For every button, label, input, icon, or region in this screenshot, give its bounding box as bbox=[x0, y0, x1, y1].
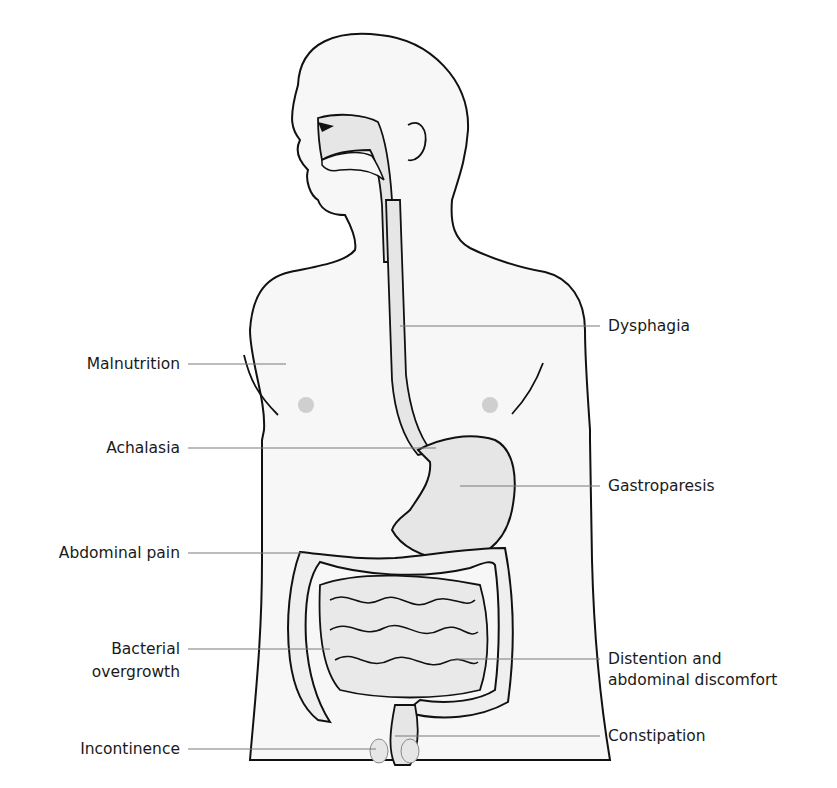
digestive-system-diagram: Malnutrition Achalasia Abdominal pain Ba… bbox=[0, 0, 837, 788]
nipple-left bbox=[298, 397, 314, 413]
label-text: Bacterial bbox=[92, 640, 180, 659]
anal-sphincter-right bbox=[401, 739, 419, 763]
label-malnutrition: Malnutrition bbox=[87, 355, 180, 374]
label-gastroparesis: Gastroparesis bbox=[608, 477, 715, 496]
label-text: Abdominal pain bbox=[59, 544, 180, 563]
label-incontinence: Incontinence bbox=[80, 740, 180, 759]
label-constipation: Constipation bbox=[608, 727, 706, 746]
small-intestine bbox=[320, 576, 488, 698]
label-text: Dysphagia bbox=[608, 317, 690, 336]
label-text: Achalasia bbox=[106, 439, 180, 458]
label-achalasia: Achalasia bbox=[106, 439, 180, 458]
label-text: Distention and bbox=[608, 650, 777, 669]
label-abdominal-pain: Abdominal pain bbox=[59, 544, 180, 563]
nipple-right bbox=[482, 397, 498, 413]
label-bacterial-overgrowth: Bacterial overgrowth bbox=[92, 640, 180, 682]
label-dysphagia: Dysphagia bbox=[608, 317, 690, 336]
label-text: Incontinence bbox=[80, 740, 180, 759]
anal-sphincter-left bbox=[370, 739, 388, 763]
label-text: Malnutrition bbox=[87, 355, 180, 374]
label-text: abdominal discomfort bbox=[608, 671, 777, 690]
label-text: Constipation bbox=[608, 727, 706, 746]
label-text: overgrowth bbox=[92, 663, 180, 682]
label-text: Gastroparesis bbox=[608, 477, 715, 496]
label-distention: Distention and abdominal discomfort bbox=[608, 650, 777, 690]
